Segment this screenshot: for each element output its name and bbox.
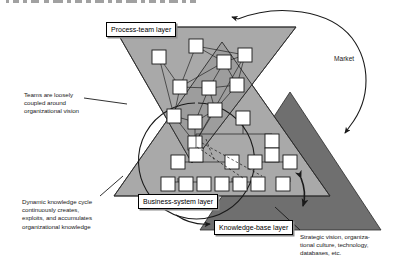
label-market: Market	[334, 55, 354, 62]
label-knowledge-base-layer[interactable]: Knowledge-base layer	[214, 220, 293, 235]
label-business-system-layer[interactable]: Business-system layer	[138, 194, 218, 209]
annotation-dynamic-knowledge-cycle: Dynamic knowledge cycle continuously cre…	[22, 198, 138, 231]
diagram-canvas: Process-team layer Business-system layer…	[0, 0, 415, 279]
annotation-teams-loosely-coupled: Teams are loosely coupled around organiz…	[24, 91, 116, 116]
label-process-team-layer[interactable]: Process-team layer	[106, 22, 176, 37]
scan-top-fragment	[6, 0, 196, 3]
annotation-strategic-vision: Strategic vision, organiza- tional cultu…	[300, 233, 414, 258]
